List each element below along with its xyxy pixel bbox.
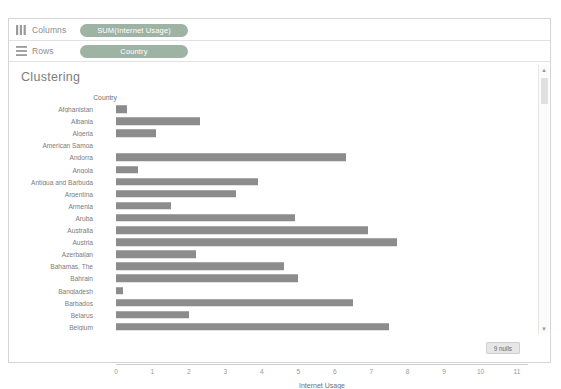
row-label: Austria [9, 239, 97, 246]
chart-row: Antigua and Barbuda [9, 176, 552, 188]
x-axis-tick-label: 4 [260, 368, 264, 375]
row-label: Belarus [9, 311, 97, 318]
chart-row: Afghanistan [9, 103, 552, 115]
row-label: Angola [9, 166, 97, 173]
chart-row: Algeria [9, 127, 552, 139]
x-axis-tick-label: 1 [151, 368, 155, 375]
bar-mark[interactable] [116, 226, 368, 234]
bar-mark[interactable] [116, 299, 353, 307]
columns-icon [16, 25, 27, 35]
x-axis-tick-label: 5 [296, 368, 300, 375]
bar-mark[interactable] [116, 238, 397, 246]
chart-row: Albania [9, 115, 552, 127]
vertical-scrollbar[interactable]: ▲ ▼ [538, 65, 549, 334]
bar-chart: Country AfghanistanAlbaniaAlgeriaAmerica… [9, 94, 552, 364]
pill-sum-internet-usage[interactable]: SUM(Internet Usage) [80, 24, 188, 37]
columns-shelf[interactable]: Columns SUM(Internet Usage) [9, 20, 550, 41]
bar-mark[interactable] [116, 105, 127, 113]
x-axis-tick-label: 7 [369, 368, 373, 375]
row-label: Barbados [9, 299, 97, 306]
row-label: Azerbaijan [9, 251, 97, 258]
null-indicator-badge[interactable]: 9 nulls [486, 342, 520, 354]
row-label: Algeria [9, 130, 97, 137]
bar-mark[interactable] [116, 129, 156, 137]
bar-mark[interactable] [116, 263, 284, 271]
bar-mark[interactable] [116, 287, 123, 295]
columns-shelf-label: Columns [32, 25, 80, 35]
tableau-worksheet-window: Columns SUM(Internet Usage) Rows Country… [8, 18, 551, 363]
chart-row: Azerbaijan [9, 248, 552, 260]
chart-row: Angola [9, 164, 552, 176]
bar-mark[interactable] [116, 178, 258, 186]
row-label: Aruba [9, 214, 97, 221]
x-axis-tick-label: 6 [333, 368, 337, 375]
bar-mark[interactable] [116, 202, 171, 210]
row-label: Albania [9, 118, 97, 125]
row-label: Andorra [9, 154, 97, 161]
x-axis-tick-label: 8 [406, 368, 410, 375]
chart-row: Belarus [9, 309, 552, 321]
chart-row: American Samoa [9, 139, 552, 151]
page-title: Clustering [21, 70, 80, 84]
x-axis-tick-label: 10 [477, 368, 484, 375]
chart-row: Andorra [9, 151, 552, 163]
row-header-title: Country [33, 94, 117, 101]
row-label: Afghanistan [9, 106, 97, 113]
x-axis-tick-label: 2 [187, 368, 191, 375]
bar-mark[interactable] [116, 311, 189, 319]
row-label: Bangladesh [9, 287, 97, 294]
row-label: Belgium [9, 323, 97, 330]
rows-shelf[interactable]: Rows Country [9, 41, 550, 62]
bar-mark[interactable] [116, 117, 200, 125]
chart-row: Austria [9, 236, 552, 248]
row-label: Armenia [9, 202, 97, 209]
row-label: American Samoa [9, 142, 97, 149]
row-label: Bahamas, The [9, 263, 97, 270]
x-axis-title: Internet Usage [116, 382, 528, 389]
x-axis-tick-label: 3 [224, 368, 228, 375]
row-label: Australia [9, 227, 97, 234]
bar-mark[interactable] [116, 214, 295, 222]
chart-row: Barbados [9, 297, 552, 309]
bar-mark[interactable] [116, 323, 389, 331]
chart-row: Bangladesh [9, 285, 552, 297]
chart-row: Bahrain [9, 272, 552, 284]
chart-row: Australia [9, 224, 552, 236]
x-axis-line [116, 364, 528, 365]
scroll-up-arrow-icon[interactable]: ▲ [539, 65, 549, 75]
chart-row: Aruba [9, 212, 552, 224]
rows-shelf-label: Rows [32, 46, 80, 56]
x-axis-tick-label: 9 [442, 368, 446, 375]
x-axis-tick-label: 0 [114, 368, 118, 375]
chart-row: Bahamas, The [9, 260, 552, 272]
worksheet-canvas: Clustering Country AfghanistanAlbaniaAlg… [9, 62, 550, 362]
chart-row: Armenia [9, 200, 552, 212]
bar-mark[interactable] [116, 275, 298, 283]
bar-mark[interactable] [116, 250, 196, 258]
row-label: Antigua and Barbuda [9, 178, 97, 185]
row-label: Bahrain [9, 275, 97, 282]
row-label: Argentina [9, 190, 97, 197]
pill-country[interactable]: Country [80, 45, 188, 58]
scroll-down-arrow-icon[interactable]: ▼ [539, 324, 549, 334]
x-axis-tick-label: 11 [514, 368, 521, 375]
rows-icon [16, 46, 27, 56]
bar-mark[interactable] [116, 154, 346, 162]
bar-mark[interactable] [116, 166, 138, 174]
bar-mark[interactable] [116, 190, 236, 198]
chart-row: Argentina [9, 188, 552, 200]
chart-row: Belgium [9, 321, 552, 333]
scrollbar-thumb[interactable] [541, 78, 548, 104]
